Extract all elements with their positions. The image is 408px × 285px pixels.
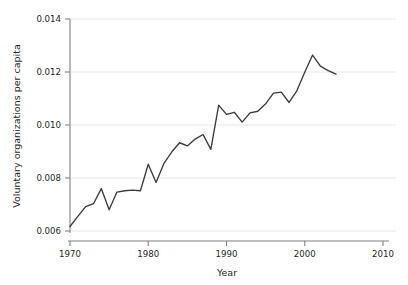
x-tick-label-2010: 2010 <box>372 249 394 259</box>
y-tick-label-0.008: 0.008 <box>36 173 61 183</box>
x-axis-label: Year <box>216 267 237 278</box>
data-series-group <box>70 55 336 226</box>
y-tick-group: 0.0060.0080.0100.0120.014 <box>36 14 70 236</box>
x-tick-label-1990: 1990 <box>216 249 238 259</box>
gridlines-group <box>70 19 396 231</box>
data-line-0 <box>70 55 336 226</box>
y-axis-label: Voluntary organizations per capita <box>11 44 22 207</box>
line-chart: 0.0060.0080.0100.0120.014 19701980199020… <box>0 0 408 285</box>
y-tick-label-0.012: 0.012 <box>36 67 61 77</box>
chart-canvas: 0.0060.0080.0100.0120.014 19701980199020… <box>0 0 408 285</box>
x-tick-group: 19701980199020002010 <box>59 241 394 259</box>
x-tick-label-1970: 1970 <box>59 249 81 259</box>
y-tick-label-0.010: 0.010 <box>36 120 61 130</box>
x-tick-label-1980: 1980 <box>137 249 159 259</box>
y-tick-label-0.006: 0.006 <box>36 226 61 236</box>
x-tick-label-2000: 2000 <box>294 249 316 259</box>
y-tick-label-0.014: 0.014 <box>36 14 61 24</box>
